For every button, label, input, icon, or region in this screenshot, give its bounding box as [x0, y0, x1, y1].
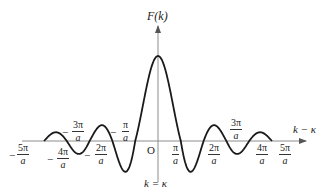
tick-m5-sign: −	[9, 150, 15, 161]
origin-label: O	[147, 145, 155, 156]
tick-p3-label: 3πa	[230, 118, 242, 141]
tick-m1-label: πa	[122, 120, 129, 143]
tick-m5-label: 5πa	[17, 143, 29, 166]
tick-p4-label: 4πa	[256, 143, 268, 166]
tick-m3-sign: −	[62, 127, 68, 138]
vertical-line-label: k = κ	[144, 178, 167, 189]
tick-m4-label: 4πa	[57, 147, 69, 170]
tick-m1-sign: −	[110, 127, 116, 138]
x-axis-label: k − κ	[293, 124, 316, 135]
tick-p5-label: 5πa	[279, 143, 291, 166]
tick-p1-label: πa	[172, 143, 179, 166]
tick-m2-sign: −	[84, 150, 90, 161]
tick-m2-label: 2πa	[95, 143, 107, 166]
y-axis-label: F(k)	[147, 10, 168, 22]
tick-p2-label: 2πa	[208, 143, 220, 166]
tick-m3-label: 3πa	[72, 120, 84, 143]
tick-m4-sign: −	[47, 154, 53, 165]
